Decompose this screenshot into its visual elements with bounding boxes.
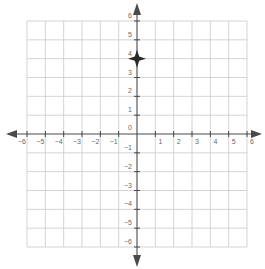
x-axis-left-arrow-icon: [6, 130, 17, 138]
y-tick-label: 3: [128, 69, 132, 76]
y-tick-label: 0: [128, 124, 132, 131]
y-tick-label: −4: [124, 200, 132, 207]
x-tick-label: 6: [250, 138, 254, 145]
x-tick-labels: −6−5−4−3−2−1123456: [18, 138, 254, 145]
y-tick-labels: 6543210−1−2−3−4−5−6: [124, 12, 132, 245]
y-tick-label: 1: [128, 106, 132, 113]
x-tick-label: 5: [232, 138, 236, 145]
x-tick-label: 4: [213, 138, 217, 145]
x-tick-label: −5: [36, 138, 44, 145]
x-axis-right-arrow-icon: [251, 130, 262, 138]
y-tick-label: 2: [128, 87, 132, 94]
x-tick-label: −4: [55, 138, 63, 145]
y-tick-label: −2: [124, 163, 132, 170]
y-axis-down-arrow-icon: [133, 255, 141, 267]
x-tick-label: −3: [73, 138, 81, 145]
y-tick-label: 4: [128, 50, 132, 57]
x-tick-label: 2: [177, 138, 181, 145]
y-tick-label: 6: [128, 12, 132, 19]
y-axis-up-arrow-icon: [133, 3, 141, 15]
y-tick-label: −6: [124, 238, 132, 245]
y-tick-label: −3: [124, 182, 132, 189]
y-tick-label: 5: [128, 31, 132, 38]
x-tick-label: 1: [158, 138, 162, 145]
x-tick-label: 3: [195, 138, 199, 145]
x-tick-label: −1: [110, 138, 118, 145]
coordinate-plane: −6−5−4−3−2−1123456 6543210−1−2−3−4−5−6: [0, 0, 265, 269]
axes: [6, 3, 262, 267]
y-tick-label: −1: [124, 144, 132, 151]
x-tick-label: −2: [91, 138, 99, 145]
y-tick-label: −5: [124, 219, 132, 226]
x-tick-label: −6: [18, 138, 26, 145]
